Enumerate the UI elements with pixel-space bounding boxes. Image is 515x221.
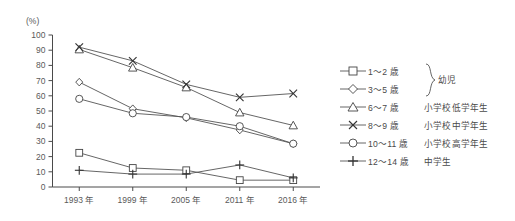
chart-page: (%) 0102030405060708090100 1993 年1999 年2… [0,0,515,221]
legend-desc-4: 小学校高学年生 [424,137,488,149]
legend-age-5: 12〜14 歳 [368,155,424,167]
legend-item-5[interactable]: 12〜14 歳 中学生 [338,152,515,170]
y-tick-label: 40 [36,121,46,131]
y-tick-label: 90 [36,45,46,55]
y-tick-label: 100 [31,30,45,40]
legend-item-4[interactable]: 10〜11 歳 小学校高学年生 [338,134,515,152]
y-axis-unit-label: (%) [26,16,39,26]
legend-item-0[interactable]: 1〜2 歳 [338,62,515,80]
series-5 [75,161,298,183]
y-tick-label: 70 [36,76,46,86]
legend-marker-cross-x [338,118,368,132]
legend-item-1[interactable]: 3〜5 歳 [338,80,515,98]
y-tick-label: 80 [36,60,46,70]
y-tick-label: 20 [36,152,46,162]
line-chart: (%) 0102030405060708090100 1993 年1999 年2… [0,0,330,221]
series-layer [75,43,298,183]
x-tick-label: 1993 年 [64,195,94,205]
chart-legend: 1〜2 歳 3〜5 歳 幼児 6〜7 歳 小学校低学年生 [338,62,515,170]
y-axis-ticks: 0102030405060708090100 [31,30,52,192]
y-tick-label: 0 [41,182,46,192]
legend-marker-square [338,64,368,78]
legend-age-2: 6〜7 歳 [368,101,424,113]
y-tick-label: 30 [36,136,46,146]
y-tick-label: 60 [36,91,46,101]
x-tick-label: 1999 年 [118,195,148,205]
legend-marker-triangle [338,100,368,114]
x-tick-label: 2011 年 [225,195,255,205]
legend-group-label: 幼児 [438,73,456,85]
series-3 [75,43,297,101]
legend-item-3[interactable]: 8〜9 歳 小学校中学年生 [338,116,515,134]
legend-item-2[interactable]: 6〜7 歳 小学校低学年生 [338,98,515,116]
x-tick-label: 2016 年 [278,195,308,205]
x-tick-label: 2005 年 [171,195,201,205]
legend-age-3: 8〜9 歳 [368,119,424,131]
chart-svg: (%) 0102030405060708090100 1993 年1999 年2… [0,0,330,221]
y-tick-label: 10 [36,167,46,177]
legend-desc-5: 中学生 [424,155,452,167]
legend-marker-plus [338,154,368,168]
legend-desc-2: 小学校低学年生 [424,101,488,113]
series-line [79,82,293,144]
legend-age-1: 3〜5 歳 [368,83,424,95]
legend-age-4: 10〜11 歳 [368,137,424,149]
x-axis-ticks: 1993 年1999 年2005 年2011 年2016 年 [64,187,308,205]
legend-desc-3: 小学校中学年生 [424,119,488,131]
legend-marker-circle [338,136,368,150]
legend-age-0: 1〜2 歳 [368,65,424,77]
y-tick-label: 50 [36,106,46,116]
legend-marker-diamond [338,82,368,96]
